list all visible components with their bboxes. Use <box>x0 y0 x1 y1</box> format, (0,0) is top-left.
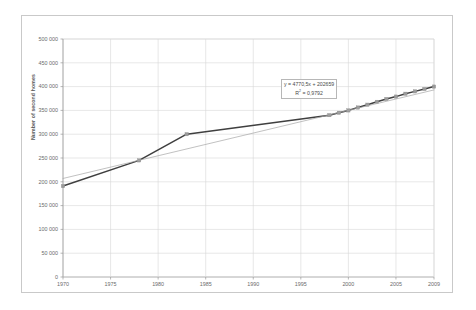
data-point-marker <box>413 90 416 93</box>
y-axis-tick-label: 150 000 <box>20 202 58 208</box>
data-point-marker <box>432 85 435 88</box>
data-point-marker <box>404 92 407 95</box>
x-axis-tick-label: 2000 <box>334 281 362 287</box>
data-point-marker <box>61 184 64 187</box>
data-series-group <box>61 85 435 188</box>
y-axis-tick-label: 300 000 <box>20 131 58 137</box>
data-point-marker <box>423 87 426 90</box>
x-axis-tick-label: 1980 <box>144 281 172 287</box>
trendline-r-squared-text: R2 = 0,9792 <box>284 88 334 97</box>
x-axis-tick-label: 1995 <box>287 281 315 287</box>
x-axis-tick-label: 2009 <box>420 281 448 287</box>
x-axis-tick-label: 1970 <box>49 281 77 287</box>
y-axis-tick-label: 0 <box>20 274 58 280</box>
y-axis-tick-label: 100 000 <box>20 226 58 232</box>
y-axis-tick-label: 400 000 <box>20 83 58 89</box>
trendline-equation-box: y = 4770,5x + 202659 R2 = 0,9792 <box>281 79 337 99</box>
data-point-marker <box>185 133 188 136</box>
gridlines-group <box>63 39 434 277</box>
data-point-marker <box>385 97 388 100</box>
x-axis-tick-label: 1975 <box>97 281 125 287</box>
y-axis-tick-label: 50 000 <box>20 250 58 256</box>
x-axis-tick-label: 1990 <box>239 281 267 287</box>
axis-lines-group <box>61 39 435 280</box>
chart-plot-svg <box>0 0 476 310</box>
y-axis-tick-label: 450 000 <box>20 60 58 66</box>
y-axis-tick-label: 500 000 <box>20 36 58 42</box>
x-axis-tick-label: 2005 <box>382 281 410 287</box>
chart-figure: Number of second homes 050 000100 000150… <box>0 0 476 310</box>
trendline-equation-text: y = 4770,5x + 202659 <box>284 81 334 88</box>
y-axis-tick-label: 250 000 <box>20 155 58 161</box>
y-axis-tick-label: 350 000 <box>20 107 58 113</box>
data-point-marker <box>394 95 397 98</box>
y-axis-tick-label: 200 000 <box>20 179 58 185</box>
x-axis-tick-label: 1985 <box>192 281 220 287</box>
